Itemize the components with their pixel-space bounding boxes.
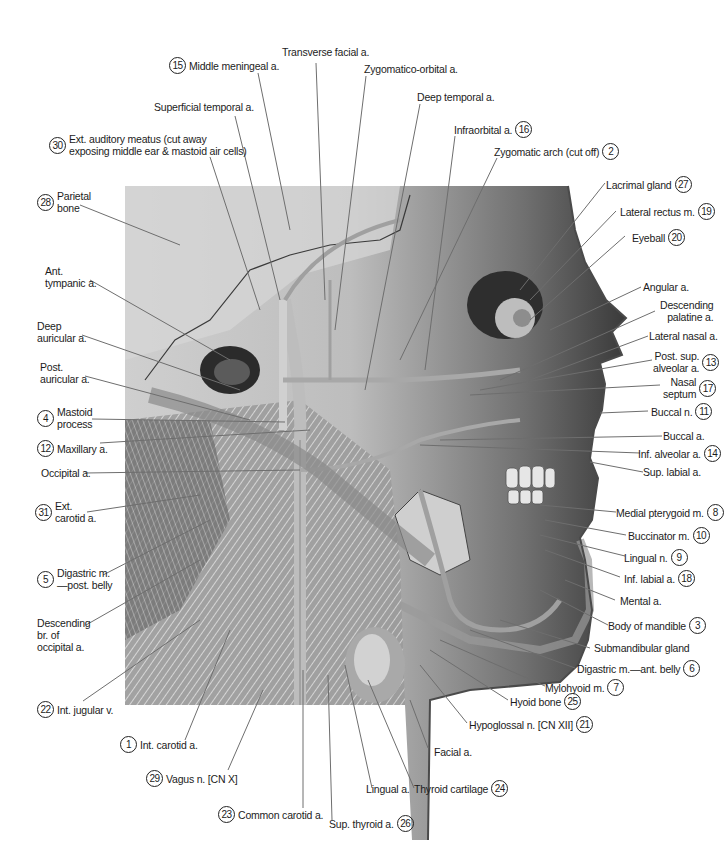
label-inf-labial-a: Inf. labial a.18 <box>624 570 695 587</box>
number-badge: 12 <box>37 440 54 457</box>
label-infraorbital-a: Infraorbital a.16 <box>454 121 532 138</box>
label-descending-palatine-a: Descendingpalatine a. <box>660 299 713 323</box>
number-badge: 25 <box>564 693 581 710</box>
label-nasal-septum: Nasalseptum17 <box>663 376 716 400</box>
label-lingual-n: Lingual n.9 <box>624 549 688 566</box>
number-badge: 29 <box>146 770 163 787</box>
label-hypoglossal-n: Hypoglossal n. [CN XII]21 <box>469 716 593 733</box>
label-lacrimal-gland: Lacrimal gland27 <box>606 176 692 193</box>
number-badge: 13 <box>702 354 719 371</box>
number-badge: 3 <box>689 617 706 634</box>
label-parietal-bone: 28Parietalbone <box>37 190 91 214</box>
label-buccal-a: Buccal a. <box>663 430 704 442</box>
label-sup-thyroid-a: Sup. thyroid a.26 <box>329 815 414 832</box>
label-occipital-a: Occipital a. <box>41 467 91 479</box>
label-mental-a: Mental a. <box>620 595 661 607</box>
number-badge: 16 <box>515 121 532 138</box>
anatomy-figure: Transverse facial a. 15Middle meningeal … <box>0 0 725 865</box>
label-zygomatico-orbital-a: Zygomatico-orbital a. <box>364 63 458 75</box>
number-badge: 18 <box>678 570 695 587</box>
label-deep-auricular-a: Deepauricular a. <box>37 320 87 344</box>
number-badge: 27 <box>675 176 692 193</box>
number-badge: 14 <box>704 445 721 462</box>
number-badge: 6 <box>683 660 700 677</box>
label-maxillary-a: 12Maxillary a. <box>37 440 108 457</box>
label-digastric-ant-belly: Digastric m.—ant. belly6 <box>577 660 700 677</box>
label-facial-a: Facial a. <box>434 746 472 758</box>
label-superficial-temporal-a: Superficial temporal a. <box>154 101 254 113</box>
number-badge: 10 <box>693 527 710 544</box>
label-digastric-post-belly: 5Digastric m.—post. belly <box>37 567 112 591</box>
number-badge: 17 <box>699 380 716 397</box>
label-middle-meningeal-a: 15Middle meningeal a. <box>169 57 279 74</box>
label-body-of-mandible: Body of mandible3 <box>608 617 706 634</box>
number-badge: 23 <box>218 806 235 823</box>
label-int-carotid-a: 1Int. carotid a. <box>120 736 198 753</box>
label-zygomatic-arch: Zygomatic arch (cut off)2 <box>494 143 619 160</box>
number-badge: 31 <box>35 504 52 521</box>
number-badge: 11 <box>695 403 712 420</box>
label-deep-temporal-a: Deep temporal a. <box>417 91 494 103</box>
label-post-auricular-a: Post.auricular a. <box>40 361 90 385</box>
label-ext-carotid-a: 31Ext.carotid a. <box>35 500 96 524</box>
label-buccal-n: Buccal n.11 <box>651 403 712 420</box>
label-lateral-nasal-a: Lateral nasal a. <box>649 330 718 342</box>
number-badge: 9 <box>671 549 688 566</box>
label-thyroid-cartilage: Thyroid cartilage24 <box>414 780 508 797</box>
label-medial-pterygoid-m: Medial pterygoid m.8 <box>616 504 724 521</box>
number-badge: 5 <box>37 571 54 588</box>
label-common-carotid-a: 23Common carotid a. <box>218 806 323 823</box>
label-buccinator-m: Buccinator m.10 <box>628 527 710 544</box>
label-ant-tympanic-a: Ant.tympanic a. <box>45 265 97 289</box>
number-badge: 21 <box>576 716 593 733</box>
label-lingual-a: Lingual a. <box>366 783 410 795</box>
number-badge: 20 <box>668 229 685 246</box>
number-badge: 19 <box>698 203 715 220</box>
number-badge: 7 <box>607 679 624 696</box>
number-badge: 30 <box>49 137 66 154</box>
number-badge: 28 <box>37 194 54 211</box>
number-badge: 8 <box>707 504 724 521</box>
label-int-jugular-v: 22Int. jugular v. <box>37 701 113 718</box>
leader-lines <box>0 0 725 865</box>
number-badge: 15 <box>169 57 186 74</box>
label-sup-labial-a: Sup. labial a. <box>643 466 701 478</box>
label-mastoid-process: 4Mastoidprocess <box>37 406 92 430</box>
label-lateral-rectus-m: Lateral rectus m.19 <box>620 203 715 220</box>
label-hyoid-bone: Hyoid bone25 <box>510 693 581 710</box>
label-ext-auditory-meatus: 30Ext. auditory meatus (cut awayexposing… <box>49 133 247 157</box>
label-submandibular-gland: Submandibular gland <box>594 642 689 654</box>
number-badge: 24 <box>491 780 508 797</box>
number-badge: 2 <box>602 143 619 160</box>
number-badge: 1 <box>120 736 137 753</box>
number-badge: 22 <box>37 701 54 718</box>
label-transverse-facial-a: Transverse facial a. <box>282 46 369 58</box>
label-post-sup-alveolar-a: Post. sup.alveolar a.13 <box>653 350 719 374</box>
label-eyeball: Eyeball20 <box>632 229 685 246</box>
number-badge: 4 <box>37 410 54 427</box>
label-vagus-n: 29Vagus n. [CN X] <box>146 770 238 787</box>
label-inf-alveolar-a: Inf. alveolar a.14 <box>638 445 721 462</box>
label-descending-br-occipital-a: Descendingbr. ofoccipital a. <box>37 617 90 653</box>
label-angular-a: Angular a. <box>643 281 689 293</box>
number-badge: 26 <box>397 815 414 832</box>
